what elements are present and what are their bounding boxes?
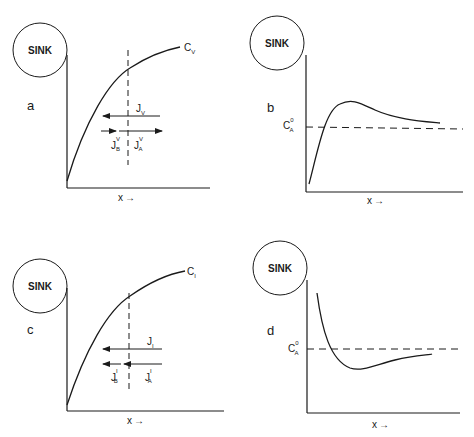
panel-c: SINK c CI JI JIB JIA x→: [13, 259, 224, 426]
sink-label: SINK: [28, 281, 53, 292]
panel-d: SINK d C0A x→: [253, 241, 460, 430]
flux-total-label: JI: [147, 336, 154, 349]
reference-level-label: C0A: [288, 340, 299, 356]
sink-label: SINK: [268, 263, 293, 274]
flux-A-label: JVA: [134, 136, 143, 152]
x-axis-label: x→: [118, 192, 135, 203]
concentration-curve: [67, 47, 180, 181]
panel-a: SINK a CV JV JVB JVA x→: [13, 23, 210, 203]
figure-canvas: SINK a CV JV JVB JVA x→ SINK b C0A x→ SI…: [0, 0, 474, 437]
curve-label: CI: [187, 266, 196, 279]
sink-label: SINK: [28, 45, 53, 56]
flux-B-label: JVB: [111, 136, 120, 152]
panel-label: a: [27, 98, 35, 113]
concentration-curve: [317, 293, 432, 369]
panel-label: d: [267, 323, 274, 338]
panel-b: SINK b C0A x→: [250, 16, 463, 206]
sink-label: SINK: [265, 38, 290, 49]
x-axis-label: x→: [367, 195, 384, 206]
flux-total-label: JV: [136, 103, 145, 116]
panel-label: c: [27, 322, 34, 337]
reference-level-line: [306, 127, 463, 129]
x-axis-label: x→: [127, 415, 144, 426]
reference-level-label: C0A: [283, 117, 294, 133]
flux-A-label: JIA: [145, 368, 152, 384]
concentration-curve: [67, 271, 185, 405]
curve-label: CV: [184, 42, 195, 55]
flux-B-label: JIB: [111, 368, 118, 384]
x-axis-label: x→: [372, 419, 389, 430]
concentration-curve: [309, 101, 440, 184]
panel-label: b: [267, 100, 274, 115]
